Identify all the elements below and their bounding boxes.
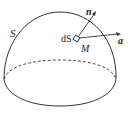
point-label: M <box>80 43 90 54</box>
element-label: dS <box>61 33 72 44</box>
vector-a-arrow <box>79 32 121 38</box>
surface-label: S <box>10 27 16 39</box>
dome-surface <box>4 12 116 106</box>
normal-vector-label: n <box>86 6 92 17</box>
vector-a-label: a <box>118 35 123 46</box>
surface-diagram: S dS M n a <box>0 0 128 118</box>
